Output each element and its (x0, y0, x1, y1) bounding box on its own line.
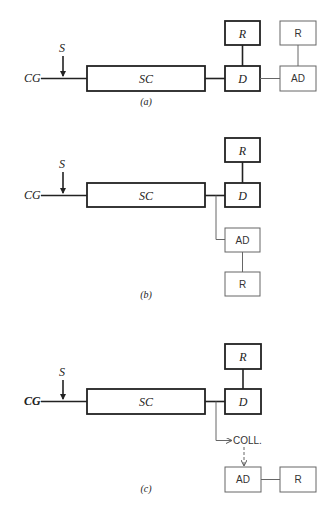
collector-label: COLL. (233, 435, 262, 446)
cg-label: CG (24, 394, 41, 408)
s-label: S (59, 41, 65, 55)
caption-c: (c) (140, 483, 152, 495)
caption-a: (a) (140, 96, 152, 108)
sc-label: SC (139, 189, 154, 203)
diagram-c: CG S SC D R COLL. AD R (c) (24, 344, 316, 495)
cg-label: CG (24, 71, 41, 85)
r-label: R (238, 350, 247, 364)
aux-r-label: R (239, 279, 246, 290)
d-label: D (238, 395, 248, 409)
d-label: D (237, 189, 247, 203)
sc-label: SC (139, 72, 154, 86)
s-label: S (59, 157, 65, 171)
diagram-canvas: CG S SC D R AD R (a) CG S SC D R AD (0, 0, 336, 505)
diagram-a: CG S SC D R AD R (a) (24, 21, 316, 108)
d-label: D (237, 72, 247, 86)
diagram-b: CG S SC D R AD R (b) (24, 138, 260, 301)
aux-r-label: R (294, 28, 301, 39)
cg-label: CG (24, 188, 41, 202)
s-label: S (59, 365, 65, 379)
r-label: R (238, 144, 247, 158)
ad-label: AD (291, 73, 305, 84)
ad-label: AD (236, 235, 250, 246)
r-label: R (238, 27, 247, 41)
branch-line (216, 196, 225, 240)
sc-label: SC (139, 395, 154, 409)
aux-r-label: R (294, 474, 301, 485)
caption-b: (b) (140, 289, 152, 301)
ad-label: AD (236, 474, 250, 485)
